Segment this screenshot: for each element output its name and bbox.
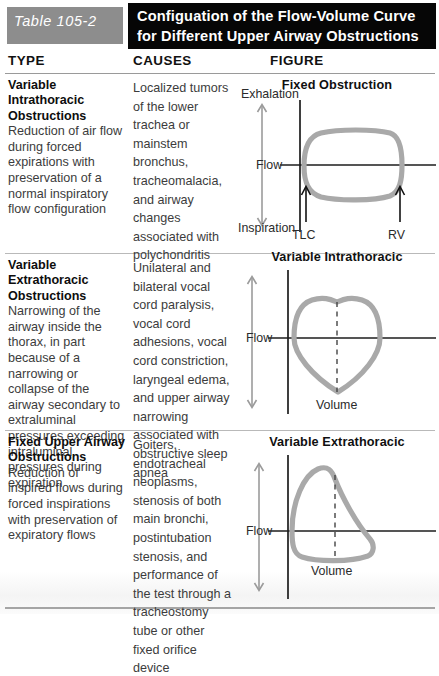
column-header-causes: CAUSES <box>133 53 192 68</box>
column-header-figure: FIGURE <box>270 53 324 68</box>
causes-text: Localized tumors of the lower trachea or… <box>133 81 228 262</box>
table-row: Variable Intrathoracic Obstructions Redu… <box>0 74 439 253</box>
table-header: Table 105-2 Configuation of the Flow-Vol… <box>0 0 439 52</box>
cell-causes: Localized tumors of the lower trachea or… <box>133 78 233 264</box>
rv-marker-label: RV <box>388 228 406 242</box>
table-row: Variable Extrathoracic Obstructions Narr… <box>0 254 439 430</box>
cell-figure: Fixed Obstruction Exhalation Flow Inspir… <box>238 74 436 253</box>
cell-figure: Variable Intrathoracic Flow Volume <box>238 254 436 430</box>
causes-text: Goiters, endotracheal neoplasms, stenosi… <box>133 438 231 675</box>
flow-axis-label: Flow <box>256 158 282 172</box>
exhalation-axis-label: Exhalation <box>241 87 299 101</box>
volume-axis-label: Volume <box>311 564 352 578</box>
volume-axis-label: Volume <box>316 398 357 412</box>
type-description: Reduction of inspired flows during force… <box>8 466 126 544</box>
table-title: Configuation of the Flow-Volume Curve fo… <box>137 7 433 46</box>
type-term: Fixed Upper Airway Obstructions <box>8 435 126 466</box>
cell-causes: Goiters, endotracheal neoplasms, stenosi… <box>133 435 233 676</box>
fixed-obstruction-flow-volume-plot: Exhalation Flow Inspiration TLC RV <box>238 74 436 253</box>
type-description: Reduction of air flow during forced expi… <box>8 124 126 218</box>
inspiration-axis-label: Inspiration <box>238 221 295 235</box>
type-term: Variable Extrathoracic Obstructions <box>8 258 126 304</box>
table-number-label: Table 105-2 <box>14 13 118 29</box>
tlc-marker-label: TLC <box>292 228 315 242</box>
flow-axis-label: Flow <box>246 524 272 538</box>
cell-type: Fixed Upper Airway Obstructions Reductio… <box>8 435 126 544</box>
type-term: Variable Intrathoracic Obstructions <box>8 78 126 124</box>
flow-axis-label: Flow <box>246 331 272 345</box>
variable-extrathoracic-flow-volume-plot: Flow Volume <box>238 431 436 607</box>
column-header-row: TYPE CAUSES FIGURE <box>0 53 439 73</box>
cell-figure: Variable Extrathoracic Flow Volume <box>238 431 436 607</box>
column-header-type: TYPE <box>8 53 45 68</box>
cell-type: Variable Intrathoracic Obstructions Redu… <box>8 78 126 218</box>
variable-intrathoracic-flow-volume-plot: Flow Volume <box>238 254 436 430</box>
table-row: Fixed Upper Airway Obstructions Reductio… <box>0 431 439 607</box>
